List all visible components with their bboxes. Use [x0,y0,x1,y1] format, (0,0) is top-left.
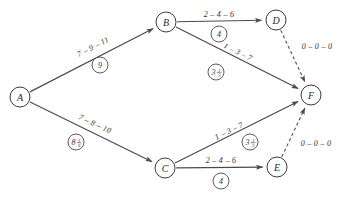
edge-time-label-e-f: 0 – 0 – 0 [301,139,332,148]
badge-value: 4 [217,30,221,39]
node-label: A [16,92,24,103]
node-a[interactable]: A [10,87,30,107]
edge-duration-badge-a-c: 816 [68,134,84,150]
node-d[interactable]: D [266,10,286,30]
edge-time-label-b-d: 2 – 4 – 6 [204,10,235,19]
edge-time-label-a-b: 7 – 9 – 11 [76,35,111,59]
edge-time-label-d-f: 0 – 0 – 0 [302,42,333,51]
badge-circle [242,134,258,150]
edge-d-f [281,30,305,82]
badge-fraction-numerator: 1 [218,68,221,73]
edge-c-e [176,167,262,168]
badge-value: 9 [98,61,102,70]
edge-b-d [177,20,261,22]
badge-value: 4 [219,177,223,186]
badge-fraction-numerator: 1 [252,138,255,143]
nodes-layer: ABCDEF [10,10,321,178]
node-label: F [307,90,315,101]
diagram-canvas: ABCDEF 7 – 9 – 1197 – 8 – 108162 – 4 – 6… [0,0,347,198]
edge-duration-badge-c-e: 4 [213,173,229,189]
edge-duration-badge-a-b: 9 [92,57,108,73]
edge-a-c [30,102,152,162]
edge-duration-badge-c-f: 313 [242,134,258,150]
edge-e-f [282,108,305,157]
node-label: E [273,162,280,173]
node-label: D [271,15,280,26]
badge-whole-part: 3 [244,138,249,147]
badge-circle [68,134,84,150]
edge-a-b [30,29,153,92]
badge-fraction-numerator: 1 [78,138,81,143]
badge-circle [208,64,224,80]
node-label: C [162,163,169,174]
edge-time-label-c-e: 2 – 4 – 6 [206,156,237,165]
badge-whole-part: 8 [71,138,75,147]
node-label: B [163,17,169,28]
edge-time-label-a-c: 7 – 8 – 10 [77,113,113,136]
edge-duration-badge-b-d: 4 [211,26,227,42]
edge-labels-layer: 7 – 9 – 1197 – 8 – 108162 – 4 – 641 – 3 … [68,10,332,190]
activity-network-graph: ABCDEF 7 – 9 – 1197 – 8 – 108162 – 4 – 6… [0,0,347,198]
node-f[interactable]: F [301,85,321,105]
node-e[interactable]: E [267,157,287,177]
edge-duration-badge-b-f: 313 [208,64,224,80]
edge-b-f [176,27,298,88]
badge-whole-part: 3 [210,68,215,77]
node-b[interactable]: B [156,12,176,32]
node-c[interactable]: C [155,158,175,178]
